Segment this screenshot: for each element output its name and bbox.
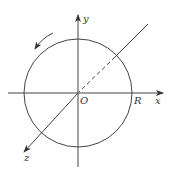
z-axis-upper-solid xyxy=(115,24,148,57)
radius-label: R xyxy=(133,95,142,106)
z-axis-dashed xyxy=(79,57,115,92)
coordinate-diagram: y x z O R xyxy=(0,0,173,179)
y-axis-label: y xyxy=(82,13,89,24)
z-axis-label: z xyxy=(23,152,30,163)
x-axis-label: x xyxy=(155,95,161,106)
origin-label: O xyxy=(80,95,88,106)
z-axis xyxy=(24,93,78,152)
